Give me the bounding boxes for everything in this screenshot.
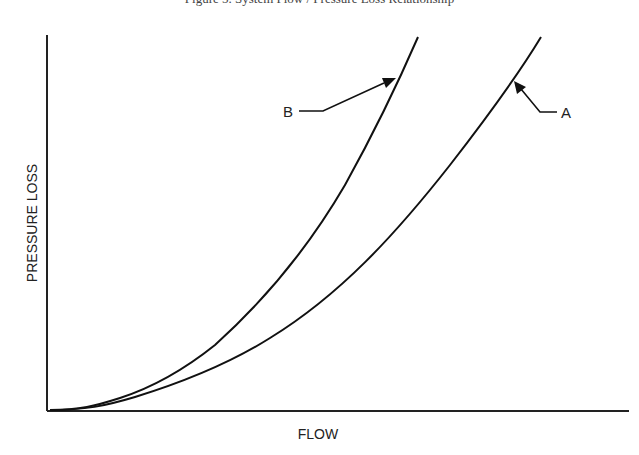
- label-b: B: [283, 103, 293, 120]
- label-a: A: [561, 104, 571, 121]
- curve-a: [50, 37, 541, 410]
- arrowhead-icon: [382, 78, 396, 88]
- callout-a: A: [514, 81, 571, 121]
- callout-b: B: [283, 78, 396, 120]
- flow-pressure-chart: B A FLOW PRESSURE LOSS: [0, 0, 639, 455]
- x-axis-label: FLOW: [298, 426, 339, 442]
- axes: [47, 35, 629, 411]
- y-axis-label: PRESSURE LOSS: [24, 164, 40, 282]
